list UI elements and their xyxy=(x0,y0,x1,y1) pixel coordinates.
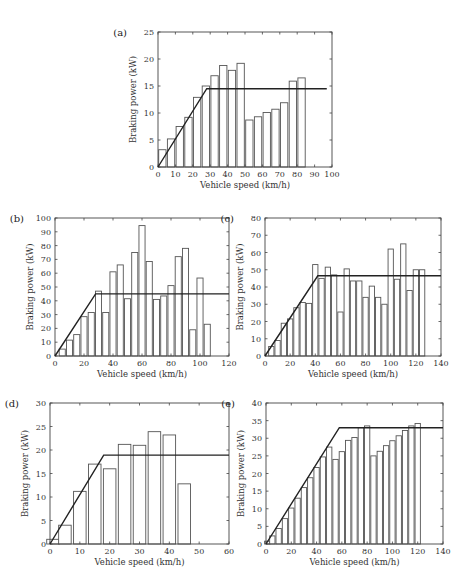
x-tick-label: 60 xyxy=(137,359,147,368)
bar xyxy=(394,279,399,356)
x-tick-label: 40 xyxy=(311,547,321,556)
y-tick-label: 60 xyxy=(251,249,261,258)
y-tick-label: 30 xyxy=(36,399,46,408)
bar xyxy=(289,508,294,544)
y-tick-label: 20 xyxy=(36,446,46,455)
x-tick-label: 120 xyxy=(221,359,236,368)
y-tick-label: 5 xyxy=(149,136,154,145)
bar xyxy=(269,347,274,356)
bar xyxy=(139,226,145,356)
bar xyxy=(59,349,65,356)
bar xyxy=(420,270,425,356)
x-tick-label: 10 xyxy=(170,170,180,179)
x-tick-label: 0 xyxy=(263,547,268,556)
bar xyxy=(220,65,227,167)
bar xyxy=(118,444,131,544)
bar xyxy=(202,86,209,167)
x-tick-label: 40 xyxy=(310,359,320,368)
bar xyxy=(314,468,319,544)
bar xyxy=(390,441,395,544)
bar xyxy=(333,459,338,544)
y-tick-label: 20 xyxy=(41,324,51,333)
x-axis-label: Vehicle speed (km/h) xyxy=(199,180,290,190)
x-tick-label: 50 xyxy=(194,547,204,556)
x-axis-label: Vehicle speed (km/h) xyxy=(94,557,185,567)
bar xyxy=(382,304,387,356)
y-tick-label: 35 xyxy=(252,417,262,426)
bar xyxy=(81,317,87,356)
bar xyxy=(357,281,362,356)
y-tick-label: 0 xyxy=(46,352,51,361)
bar xyxy=(339,452,344,544)
bar xyxy=(66,340,72,356)
bar xyxy=(358,428,363,544)
bar xyxy=(308,478,313,544)
x-tick-label: 80 xyxy=(292,170,302,179)
y-axis-label: Braking power (kW) xyxy=(128,56,138,143)
bar xyxy=(306,303,311,356)
panel-label: (d) xyxy=(5,398,19,409)
bar xyxy=(413,270,418,356)
bar xyxy=(197,278,203,356)
panel-label: (a) xyxy=(113,27,127,38)
x-axis-label: Vehicle speed (km/h) xyxy=(307,369,398,379)
bar xyxy=(161,296,167,356)
chart-panel-b: 0204060801001200102030405060708090100Veh… xyxy=(10,213,237,379)
bar xyxy=(146,261,152,356)
x-tick-label: 60 xyxy=(337,547,347,556)
y-tick-label: 20 xyxy=(144,55,154,64)
x-tick-label: 0 xyxy=(47,547,52,556)
y-tick-label: 10 xyxy=(251,335,261,344)
x-tick-label: 30 xyxy=(205,170,215,179)
bar xyxy=(396,436,401,544)
bar xyxy=(153,299,159,356)
bar xyxy=(313,265,318,356)
bar xyxy=(74,335,80,356)
bar xyxy=(364,426,369,544)
y-tick-label: 100 xyxy=(36,214,51,223)
x-tick-label: 40 xyxy=(164,547,174,556)
bar xyxy=(409,426,414,544)
bar xyxy=(371,456,376,544)
bar xyxy=(59,525,72,544)
y-tick-label: 40 xyxy=(41,297,51,306)
chart-panel-a: 01020304050607080901000510152025Vehicle … xyxy=(113,27,339,190)
bar xyxy=(74,491,87,544)
x-tick-label: 80 xyxy=(360,359,370,368)
y-tick-label: 25 xyxy=(144,28,154,37)
x-axis-label: Vehicle speed (km/h) xyxy=(96,369,187,379)
bar xyxy=(124,299,130,356)
bar xyxy=(415,423,420,544)
bar xyxy=(377,451,382,544)
braking-power-figure: 01020304050607080901000510152025Vehicle … xyxy=(0,0,467,579)
x-tick-label: 80 xyxy=(362,547,372,556)
bar xyxy=(407,290,412,356)
bar xyxy=(263,112,270,167)
x-tick-label: 100 xyxy=(383,359,398,368)
bar xyxy=(346,440,351,544)
y-tick-label: 10 xyxy=(41,338,51,347)
bar xyxy=(133,445,146,544)
bar xyxy=(246,120,253,167)
bar xyxy=(182,248,188,356)
bar xyxy=(211,76,218,167)
panel-label: (e) xyxy=(221,398,235,409)
y-axis-label: Braking power (kW) xyxy=(235,243,245,330)
y-tick-label: 20 xyxy=(252,470,262,479)
bar xyxy=(272,109,279,167)
y-tick-label: 0 xyxy=(149,163,154,172)
bar xyxy=(301,488,306,544)
bar xyxy=(289,81,296,167)
bar xyxy=(319,278,324,356)
y-tick-label: 20 xyxy=(251,318,261,327)
x-tick-label: 40 xyxy=(223,170,233,179)
y-tick-label: 60 xyxy=(41,269,51,278)
y-tick-label: 90 xyxy=(41,228,51,237)
x-tick-label: 0 xyxy=(52,359,57,368)
bar xyxy=(237,63,244,167)
x-tick-label: 120 xyxy=(410,547,425,556)
x-tick-label: 120 xyxy=(408,359,423,368)
bar xyxy=(298,78,305,167)
y-tick-label: 50 xyxy=(41,283,51,292)
x-tick-label: 100 xyxy=(192,359,207,368)
